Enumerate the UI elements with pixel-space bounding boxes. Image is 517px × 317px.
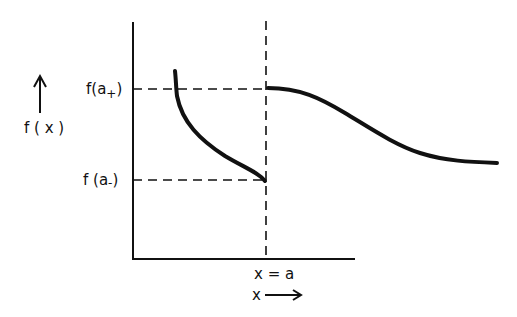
- right-arrow-icon: [265, 290, 301, 300]
- diagram-canvas: f ( x ) f(a+) f (a-) x = a x: [0, 0, 517, 317]
- right-curve-branch: [268, 88, 497, 163]
- left-curve-branch: [175, 71, 265, 181]
- f-a-plus-label: f(a+): [86, 80, 122, 101]
- x-axis-label: x: [252, 286, 261, 304]
- y-axis-label: f ( x ): [24, 119, 64, 137]
- f-a-minus-label: f (a-): [83, 171, 118, 190]
- x-equals-a-label: x = a: [254, 265, 294, 283]
- diagram-svg: f ( x ) f(a+) f (a-) x = a x: [0, 0, 517, 317]
- up-arrow-icon: [34, 76, 46, 113]
